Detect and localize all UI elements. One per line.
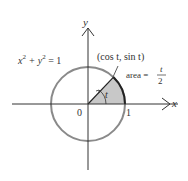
circle-equation: x2 + y2 = 1 (17, 53, 61, 66)
svg-text:x2 + y2 = 1: x2 + y2 = 1 (17, 53, 61, 66)
one-label: 1 (126, 107, 131, 118)
origin-label: 0 (77, 107, 82, 118)
angle-label: t (105, 89, 108, 100)
x-axis-label: x (171, 97, 177, 109)
area-denominator: 2 (158, 76, 163, 86)
point-label: (cos t, sin t) (97, 51, 144, 63)
area-label: area = (126, 70, 148, 80)
unit-circle-diagram: y x 0 1 t x2 + y2 = 1 (cos t, sin t) are… (0, 0, 188, 181)
area-numerator: t (160, 64, 163, 74)
y-axis-label: y (82, 16, 88, 28)
point-pointer-line (113, 66, 118, 77)
